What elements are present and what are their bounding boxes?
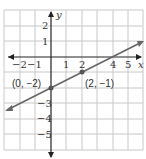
point-label-2-neg1: (2, −1) [85, 78, 114, 89]
x-tick: −2 [12, 59, 27, 70]
y-tick: 1 [42, 36, 48, 47]
y-axis-down-arrow-icon [48, 152, 54, 158]
y-tick: −4 [37, 113, 52, 124]
x-tick: 2 [79, 59, 85, 70]
y-tick: −5 [37, 129, 52, 140]
y-axis-label: y [55, 9, 62, 20]
y-tick: 2 [42, 20, 48, 31]
x-tick: −1 [27, 59, 42, 70]
point-0-neg2 [49, 86, 54, 91]
x-tick: 1 [63, 59, 69, 70]
graph-line [7, 42, 142, 110]
coordinate-plane: x y −2 −1 1 2 4 5 2 1 −3 −4 −5 (0, −2) (… [0, 0, 146, 159]
y-tick: −3 [37, 98, 52, 109]
point-label-0-neg2: (0, −2) [12, 78, 41, 89]
line-left-arrow-icon [5, 105, 13, 111]
x-tick: 4 [110, 59, 116, 70]
x-axis-label: x [138, 59, 144, 70]
x-tick: 5 [125, 59, 131, 70]
point-2-neg1 [80, 70, 85, 75]
y-axis-up-arrow-icon [48, 11, 54, 17]
